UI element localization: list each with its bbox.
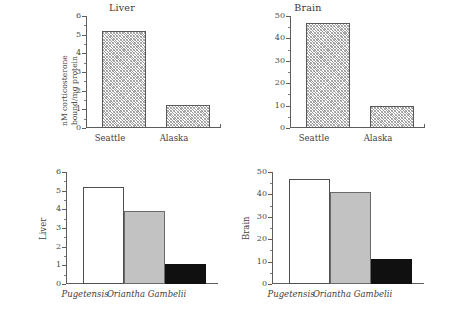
y-minor-tick bbox=[270, 273, 273, 274]
y-tick-2 bbox=[62, 247, 66, 248]
y-tick-20 bbox=[268, 239, 272, 240]
y-minor-tick bbox=[84, 44, 87, 45]
y-tick-label-4: 4 bbox=[76, 49, 81, 57]
y-minor-tick bbox=[270, 183, 273, 184]
y-tick-5 bbox=[62, 191, 66, 192]
y-minor-tick bbox=[288, 50, 291, 51]
y-minor-tick bbox=[84, 63, 87, 64]
y-tick-6 bbox=[82, 16, 86, 17]
y-tick-0 bbox=[286, 128, 290, 129]
y-tick-label-50: 50 bbox=[275, 12, 285, 20]
y-tick-1 bbox=[82, 109, 86, 110]
y-tick-label-2: 2 bbox=[56, 243, 61, 251]
y-tick-50 bbox=[286, 16, 290, 17]
y-tick-label-30: 30 bbox=[275, 57, 285, 65]
y-tick-30 bbox=[286, 61, 290, 62]
y-minor-tick bbox=[288, 27, 291, 28]
y-tick-40 bbox=[286, 38, 290, 39]
y-axis-line bbox=[66, 172, 67, 284]
y-tick-3 bbox=[62, 228, 66, 229]
y-minor-tick bbox=[270, 206, 273, 207]
y-tick-label-10: 10 bbox=[257, 258, 267, 266]
y-tick-label-0: 0 bbox=[76, 124, 81, 132]
y-minor-tick bbox=[288, 72, 291, 73]
panel-brain-species: Brain 0 10 20 30 40 50 Pug bbox=[244, 160, 452, 312]
y-tick-label-5: 5 bbox=[76, 31, 81, 39]
axis-label-brain: Brain bbox=[241, 216, 251, 240]
y-tick-30 bbox=[268, 217, 272, 218]
plot-area-brain-species: 0 10 20 30 40 50 bbox=[272, 172, 412, 284]
y-tick-40 bbox=[268, 194, 272, 195]
bar-seattle bbox=[102, 31, 146, 128]
x-label-gambelii: Gambelii bbox=[137, 290, 197, 299]
y-tick-label-1: 1 bbox=[56, 261, 61, 269]
x-axis-end-tick bbox=[220, 124, 221, 128]
y-minor-tick bbox=[64, 181, 67, 182]
y-tick-2 bbox=[82, 91, 86, 92]
y-tick-0 bbox=[268, 284, 272, 285]
y-tick-3 bbox=[82, 72, 86, 73]
bar-gambelii bbox=[165, 264, 206, 285]
panel-liver-species: Liver 0 1 2 3 4 5 6 bbox=[18, 160, 226, 312]
y-tick-label-10: 10 bbox=[275, 102, 285, 110]
y-tick-label-6: 6 bbox=[56, 168, 61, 176]
y-tick-10 bbox=[268, 262, 272, 263]
y-tick-50 bbox=[268, 172, 272, 173]
y-tick-label-2: 2 bbox=[76, 87, 81, 95]
y-minor-tick bbox=[84, 119, 87, 120]
y-minor-tick bbox=[288, 94, 291, 95]
y-axis-line bbox=[272, 172, 273, 284]
bar-seattle bbox=[306, 23, 350, 128]
bar-gambelii bbox=[371, 259, 412, 284]
bar-alaska bbox=[370, 106, 414, 128]
y-tick-label-30: 30 bbox=[257, 213, 267, 221]
y-minor-tick bbox=[84, 25, 87, 26]
bar-alaska bbox=[166, 105, 210, 128]
x-label-alaska: Alaska bbox=[348, 134, 408, 143]
y-axis-line bbox=[86, 16, 87, 128]
y-minor-tick bbox=[64, 256, 67, 257]
y-tick-label-40: 40 bbox=[257, 190, 267, 198]
y-tick-4 bbox=[62, 209, 66, 210]
y-tick-label-3: 3 bbox=[56, 224, 61, 232]
x-axis-end-tick bbox=[424, 124, 425, 128]
axis-label-line-1: nM corticosterone bbox=[60, 55, 69, 126]
y-axis-line bbox=[290, 16, 291, 128]
y-minor-tick bbox=[270, 228, 273, 229]
y-tick-1 bbox=[62, 265, 66, 266]
y-tick-4 bbox=[82, 53, 86, 54]
y-tick-label-3: 3 bbox=[76, 68, 81, 76]
panel-liver-population: Liver nM corticosterone bound/mg protein… bbox=[18, 2, 226, 154]
y-minor-tick bbox=[64, 219, 67, 220]
y-tick-label-20: 20 bbox=[275, 79, 285, 87]
x-label-seattle: Seattle bbox=[284, 134, 344, 143]
y-minor-tick bbox=[84, 81, 87, 82]
bar-oriantha bbox=[330, 192, 371, 284]
y-minor-tick bbox=[64, 237, 67, 238]
y-minor-tick bbox=[64, 275, 67, 276]
y-tick-0 bbox=[62, 284, 66, 285]
y-tick-20 bbox=[286, 83, 290, 84]
y-tick-label-40: 40 bbox=[275, 34, 285, 42]
y-tick-label-1: 1 bbox=[76, 105, 81, 113]
figure-four-panel-bar-charts: Liver nM corticosterone bound/mg protein… bbox=[0, 0, 452, 316]
y-tick-label-6: 6 bbox=[76, 12, 81, 20]
y-tick-5 bbox=[82, 35, 86, 36]
y-tick-6 bbox=[62, 172, 66, 173]
y-minor-tick bbox=[64, 200, 67, 201]
y-tick-label-4: 4 bbox=[56, 205, 61, 213]
y-tick-label-0: 0 bbox=[56, 280, 61, 288]
y-tick-label-0: 0 bbox=[262, 280, 267, 288]
panel-title-brain: Brain bbox=[204, 2, 412, 13]
y-tick-label-50: 50 bbox=[257, 168, 267, 176]
y-minor-tick bbox=[288, 117, 291, 118]
y-minor-tick bbox=[84, 100, 87, 101]
x-label-gambelii: Gambelii bbox=[343, 290, 403, 299]
y-tick-10 bbox=[286, 106, 290, 107]
plot-area-liver-species: 0 1 2 3 4 5 6 bbox=[66, 172, 206, 284]
plot-area-liver-population: 0 1 2 3 4 5 6 bbox=[86, 16, 216, 128]
y-minor-tick bbox=[270, 250, 273, 251]
y-tick-label-20: 20 bbox=[257, 235, 267, 243]
panel-brain-population: Brain 0 10 20 30 40 50 Sea bbox=[244, 2, 452, 154]
axis-label-liver: Liver bbox=[38, 218, 48, 240]
